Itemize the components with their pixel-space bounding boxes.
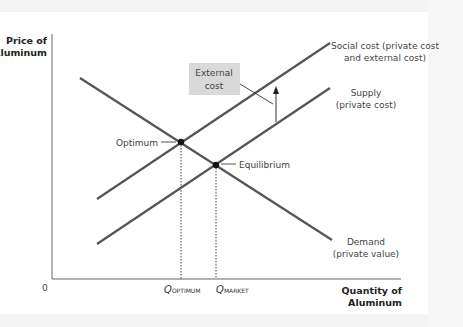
optimum-point [178, 139, 184, 145]
q-market-q: Q [216, 284, 224, 295]
equilibrium-point [213, 162, 219, 168]
q-market-label: QMARKET [216, 284, 249, 295]
optimum-label: Optimum [116, 138, 158, 148]
demand-curve [80, 78, 332, 240]
y-axis-label-line1: Price of [6, 35, 48, 46]
external-cost-label-line2: cost [205, 81, 224, 91]
x-axis-label-line2: Aluminum [348, 297, 402, 308]
q-optimum-q: Q [164, 284, 172, 295]
x-axis-label-line1: Quantity of [341, 285, 402, 296]
demand-label-line2: (private value) [333, 249, 399, 259]
q-optimum-sub: OPTIMUM [172, 287, 201, 294]
supply-label-line1: Supply [351, 88, 382, 98]
y-axis-label-line2: Aluminum [0, 47, 47, 58]
externality-chart: Price of Aluminum Quantity of Aluminum 0… [0, 0, 463, 327]
arrowhead-up-icon [273, 86, 279, 94]
social-cost-label-line2: and external cost) [344, 53, 426, 63]
equilibrium-label: Equilibrium [239, 160, 290, 170]
supply-label-line2: (private cost) [336, 100, 396, 110]
q-optimum-label: QOPTIMUM [164, 284, 200, 295]
q-market-sub: MARKET [224, 287, 249, 294]
external-cost-label-line1: External [195, 68, 232, 78]
origin-label: 0 [42, 283, 48, 293]
demand-label-line1: Demand [347, 237, 385, 247]
social-cost-label-line1: Social cost (private cost [331, 41, 439, 51]
